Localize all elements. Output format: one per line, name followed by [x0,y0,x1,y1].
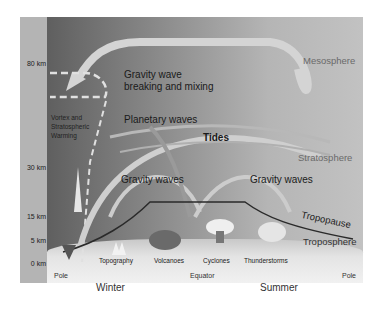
altitude-label-80km: 80 km [27,60,46,67]
gravity-waves-right-label: Gravity waves [250,174,313,185]
region-stratosphere: Stratosphere [298,152,352,163]
gravity-wave-breaking-line2: breaking and mixing [124,81,214,92]
source-topography: Topography [99,257,133,264]
tides-label: Tides [203,132,229,143]
region-troposphere: Troposphere [303,236,357,247]
source-thunderstorms: Thunderstorms [244,257,288,264]
altitude-label-15km: 15 km [27,213,46,220]
gravity-wave-breaking-line1: Gravity wave [124,69,182,80]
ground-pole-right: Pole [342,272,356,279]
pole-descent-icon [62,245,76,260]
topography-icon [112,242,126,255]
vortex-label-line1: Vortex and [51,114,82,121]
ground-pole-left: Pole [54,272,68,279]
vortex-spike-icon [74,167,82,212]
source-volcanoes: Volcanoes [154,257,184,264]
vortex-label-line3: Warming [51,132,77,139]
atmosphere-diagram: 80 km 30 km 15 km 5 km 0 km Mesosphere S… [20,17,363,283]
altitude-label-5km: 5 km [31,237,46,244]
thunderstorm-icon [258,222,286,242]
source-cyclones: Cyclones [203,257,230,264]
planetary-waves-label: Planetary waves [124,114,197,125]
season-winter: Winter [96,282,125,293]
region-mesosphere: Mesosphere [303,55,355,66]
vortex-label-line2: Stratospheric [51,123,89,130]
gravity-waves-left-label: Gravity waves [121,174,184,185]
season-summer: Summer [260,282,298,293]
volcano-icon [149,230,181,250]
ground-equator: Equator [190,272,215,279]
altitude-label-0km: 0 km [31,260,46,267]
altitude-label-30km: 30 km [27,164,46,171]
